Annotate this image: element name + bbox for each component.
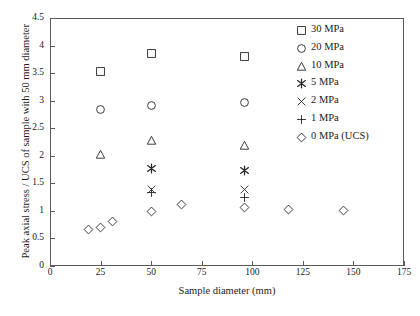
- x-axis-tick: [50, 261, 51, 266]
- legend-item-label: 1 MPa: [311, 112, 339, 125]
- legend-item: 20 MPa: [296, 40, 400, 58]
- legend-item: 10 MPa: [296, 58, 400, 76]
- x-axis-tick-label: 50: [131, 268, 171, 278]
- x-axis-tick: [353, 261, 354, 266]
- y-axis-tick: [50, 46, 55, 47]
- y-axis-tick: [50, 18, 55, 19]
- y-axis-tick: [50, 156, 55, 157]
- x-axis-tick: [404, 261, 405, 266]
- x-axis-tick-label: 125: [283, 268, 323, 278]
- x-axis-tick: [252, 261, 253, 266]
- legend-item-label: 10 MPa: [311, 59, 344, 72]
- x-axis-tick-label: 100: [232, 268, 272, 278]
- data-point: [338, 205, 349, 216]
- y-axis-tick: [50, 183, 55, 184]
- y-axis-tick: [50, 73, 55, 74]
- x-axis-tick-label: 175: [384, 268, 420, 278]
- x-axis-tick: [303, 261, 304, 266]
- legend-item: 5 MPa: [296, 75, 400, 93]
- data-point: [239, 51, 250, 62]
- data-point: [146, 135, 157, 146]
- legend-item-label: 5 MPa: [311, 76, 339, 89]
- square-marker-icon: [296, 25, 307, 36]
- data-point: [239, 140, 250, 151]
- y-axis-tick: [50, 211, 55, 212]
- legend-item-label: 20 MPa: [311, 41, 344, 54]
- y-axis-tick: [50, 128, 55, 129]
- data-point: [95, 66, 106, 77]
- data-point: [239, 192, 250, 203]
- legend-item: 2 MPa: [296, 93, 400, 111]
- scatter-chart-figure: 00.511.522.533.544.5 0255075100125150175…: [0, 0, 420, 316]
- legend-item-label: 30 MPa: [311, 23, 344, 36]
- x-axis-tick-label: 25: [81, 268, 121, 278]
- data-point: [239, 202, 250, 213]
- plus-marker-icon: [296, 114, 307, 125]
- x-axis-tick-label: 150: [333, 268, 373, 278]
- asterisk-marker-icon: [296, 78, 307, 89]
- data-point: [95, 222, 106, 233]
- legend-item: 30 MPa: [296, 22, 400, 40]
- x-axis-tick: [151, 261, 152, 266]
- legend-item: 0 MPa (UCS): [296, 129, 400, 147]
- triangle-marker-icon: [296, 61, 307, 72]
- circle-marker-icon: [296, 43, 307, 54]
- data-point: [146, 206, 157, 217]
- data-point: [146, 48, 157, 59]
- data-point: [146, 187, 157, 198]
- data-point: [95, 104, 106, 115]
- data-point: [95, 149, 106, 160]
- data-point: [146, 100, 157, 111]
- y-axis-tick: [50, 101, 55, 102]
- legend-item-label: 2 MPa: [311, 94, 339, 107]
- legend-item-label: 0 MPa (UCS): [311, 130, 369, 143]
- data-point: [283, 204, 294, 215]
- cross-marker-icon: [296, 96, 307, 107]
- x-axis-tick-label: 0: [30, 268, 70, 278]
- x-axis-title: Sample diameter (mm): [50, 286, 404, 297]
- x-axis-tick: [101, 261, 102, 266]
- data-point: [239, 165, 250, 176]
- data-point: [83, 224, 94, 235]
- legend-item: 1 MPa: [296, 111, 400, 129]
- chart-legend: 30 MPa20 MPa10 MPa5 MPa2 MPa1 MPa0 MPa (…: [296, 22, 400, 147]
- data-point: [239, 97, 250, 108]
- x-axis-tick-label: 75: [182, 268, 222, 278]
- x-axis-tick: [202, 261, 203, 266]
- y-axis-tick: [50, 238, 55, 239]
- data-point: [176, 199, 187, 210]
- data-point: [146, 163, 157, 174]
- data-point: [107, 216, 118, 227]
- y-axis-title: Peak axial stress / UCS of sample with 5…: [21, 11, 32, 271]
- diamond-marker-icon: [296, 132, 307, 143]
